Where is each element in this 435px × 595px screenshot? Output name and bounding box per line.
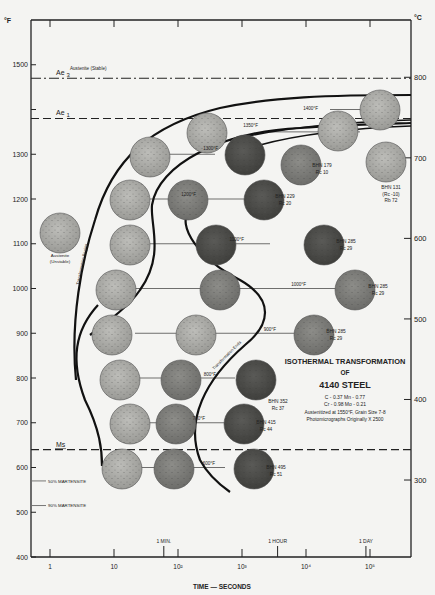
photomicrograph-texture: [156, 404, 196, 444]
ttt-diagram: 15001300120011001000900800700600500400 8…: [0, 0, 435, 595]
hardness-label: BHN 179: [312, 163, 332, 168]
time-marker-label: 1 DAY: [359, 538, 374, 544]
isotherm-label: 600°F: [203, 461, 216, 466]
note-line-2: Photomicrographs Originally X 2500: [307, 417, 384, 422]
y-axis-celsius: 800700600500400300: [404, 73, 427, 485]
hardness-label: BHN 415: [256, 420, 276, 425]
hardness-label: BHN 285: [336, 239, 356, 244]
hardness-label: (Rc -10): [382, 192, 400, 197]
title-block: ISOTHERMAL TRANSFORMATION OF 4140 STEEL …: [285, 357, 405, 422]
photomicrograph-texture: [110, 180, 150, 220]
transformation-begins-label: Transformation Begins: [75, 243, 89, 285]
x-axis-title: TIME — SECONDS: [193, 583, 251, 590]
hardness-label: Rc 29: [330, 336, 343, 341]
time-marker-label: 1 HOUR: [268, 538, 287, 544]
photomicrograph-texture: [96, 270, 136, 310]
photomicrograph-texture: [154, 449, 194, 489]
title-line-3: 4140 STEEL: [319, 380, 371, 390]
hardness-label: Rc 44: [260, 427, 273, 432]
x-tick-label: 10⁴: [301, 563, 311, 570]
hardness-label: BHN 285: [326, 329, 346, 334]
martensite-label: 50% MARTENSITE: [48, 479, 86, 484]
hardness-label: BHN 495: [266, 465, 286, 470]
photomicrograph-texture: [102, 449, 142, 489]
y-tick-label-f: 1100: [13, 240, 28, 247]
isotherm-label: 1100°F: [229, 237, 244, 242]
y-tick-label-c: 500: [414, 315, 427, 324]
isotherm-label: 1300°F: [203, 146, 218, 151]
hardness-label: Rc 20: [279, 201, 292, 206]
x-tick-label: 10³: [237, 563, 247, 570]
y-tick-label-c: 400: [414, 395, 427, 404]
hardness-label: Rc 29: [340, 246, 353, 251]
title-line-1: ISOTHERMAL TRANSFORMATION: [285, 357, 405, 366]
y-axis-unit-left: °F: [4, 17, 12, 24]
hardness-label: Rc 51: [270, 472, 283, 477]
composition-line-1: C - 0.37 Mn - 0.77: [325, 394, 366, 400]
y-axis-unit-right: °C: [414, 14, 422, 21]
isotherm-label: 900°F: [264, 327, 277, 332]
time-marker-label: 1 MIN.: [156, 538, 171, 544]
austenite-unstable-label: Austenite: [51, 253, 70, 258]
photomicrograph-texture: [366, 142, 406, 182]
photomicrograph-texture: [110, 225, 150, 265]
photomicrograph-texture: [168, 180, 208, 220]
y-tick-label-f: 1000: [12, 285, 28, 292]
hardness-label: BHN 352: [268, 399, 288, 404]
composition-line-2: Cr - 0.98 Mo - 0.21: [324, 401, 366, 407]
hardness-label: BHN 229: [275, 194, 295, 199]
austenite-stable-label: Austenite (Stable): [70, 66, 107, 71]
y-tick-label-f: 500: [16, 509, 28, 516]
photomicrograph-texture: [294, 315, 334, 355]
y-tick-label-f: 700: [16, 419, 28, 426]
hardness-label: BHN 131: [381, 185, 401, 190]
transformation-ends-label: Transformation Ends: [211, 340, 242, 371]
hardness-label: BHN 285: [368, 284, 388, 289]
photomicrograph-texture: [360, 90, 400, 130]
photomicrograph-texture: [40, 213, 80, 253]
x-tick-label: 10: [110, 563, 118, 570]
title-line-2: OF: [340, 369, 349, 376]
y-tick-label-f: 900: [16, 330, 28, 337]
photomicrograph-texture: [176, 315, 216, 355]
hardness-label: Rb 72: [385, 198, 398, 203]
y-tick-label-c: 600: [414, 234, 427, 243]
y-tick-label-c: 700: [414, 154, 427, 163]
y-tick-label-f: 400: [16, 554, 28, 561]
hardness-label: Rc 10: [316, 170, 329, 175]
y-tick-label-c: 300: [414, 476, 427, 485]
hardness-label: Rc 29: [372, 291, 385, 296]
austenite-unstable-label: (Unstable): [50, 259, 71, 264]
y-tick-label-f: 600: [16, 464, 28, 471]
y-tick-label-f: 1300: [12, 151, 28, 158]
photomicrograph-texture: [130, 137, 170, 177]
y-axis-fahrenheit: 15001300120011001000900800700600500400: [12, 61, 36, 560]
isotherm-label: 1200°F: [181, 192, 196, 197]
martensite-label: 90% MARTENSITE: [48, 503, 86, 508]
photomicrograph-texture: [161, 360, 201, 400]
y-tick-label-f: 1500: [12, 61, 28, 68]
critical-line-label: Ae1: [56, 109, 71, 118]
photomicrograph-texture: [200, 270, 240, 310]
photomicrograph-texture: [225, 135, 265, 175]
photomicrograph-texture: [196, 225, 236, 265]
y-tick-label-c: 800: [414, 73, 427, 82]
isotherm-label: 1400°F: [303, 106, 318, 111]
isotherm-label: 800°F: [204, 372, 217, 377]
isotherm-label: 1000°F: [291, 282, 306, 287]
note-line-1: Austenitized at 1550°F, Grain Size 7-8: [304, 410, 385, 415]
y-tick-label-f: 1200: [12, 196, 28, 203]
x-tick-label: 10⁵: [365, 563, 375, 570]
photomicrograph-texture: [304, 225, 344, 265]
critical-line-label: Ms: [56, 441, 66, 448]
photomicrograph-texture: [92, 315, 132, 355]
critical-line-label: Ae3: [56, 69, 71, 78]
photomicrograph-texture: [236, 360, 276, 400]
isotherm-label: 1350°F: [243, 123, 258, 128]
y-tick-label-f: 800: [16, 375, 28, 382]
photomicrograph-texture: [335, 270, 375, 310]
hardness-label: Rc 37: [272, 406, 285, 411]
photomicrograph-texture: [110, 404, 150, 444]
x-tick-label: 1: [48, 563, 52, 570]
isotherm-label: 700°F: [193, 416, 206, 421]
